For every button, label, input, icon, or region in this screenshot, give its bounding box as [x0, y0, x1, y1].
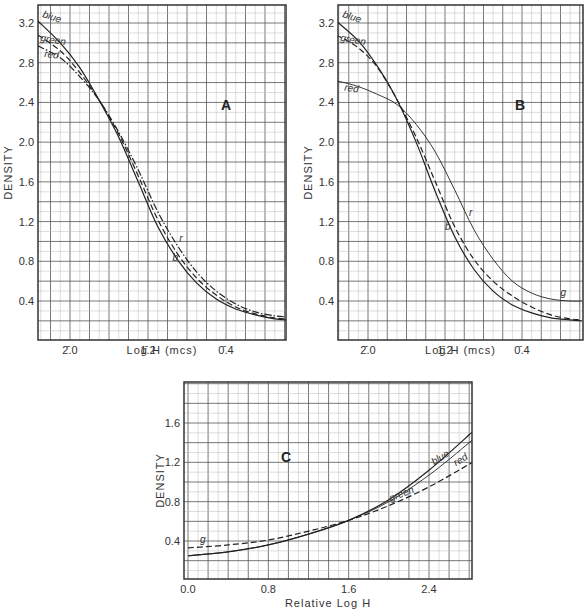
y-tick-label: 2.4: [319, 96, 334, 108]
curve-red: [188, 433, 479, 556]
curve-red: [38, 46, 287, 317]
y-axis-title: DENSITY: [154, 453, 166, 508]
x-tick-label: 0.8: [261, 583, 276, 595]
curve-label-blue: blue: [341, 8, 363, 24]
curve-label-blue: blue: [41, 8, 63, 24]
curve-label-g: g: [561, 287, 567, 298]
y-tick-label: 0.8: [319, 255, 334, 267]
curve-label-g: g: [200, 534, 206, 545]
y-tick-label: 2.0: [319, 136, 334, 148]
y-tick-label: 2.4: [19, 96, 34, 108]
curve-label-green: green: [340, 32, 368, 47]
grid-b: [338, 5, 583, 340]
y-tick-label: 3.2: [19, 17, 34, 29]
plot-frame-b: [338, 5, 583, 340]
y-tick-label: 1.6: [165, 417, 180, 429]
y-tick-label: 1.2: [165, 456, 180, 468]
y-tick-label: 0.8: [165, 496, 180, 508]
x-tick-label: 0̄.4: [218, 344, 233, 356]
grid-a: [38, 5, 286, 340]
curve-green: [38, 35, 287, 319]
y-axis-c: 1.61.20.80.4: [165, 417, 180, 547]
curve-red: [336, 81, 581, 302]
y-tick-label: 0.4: [19, 295, 34, 307]
chart-panel-b: 3.22.82.42.01.61.20.80.42̄.01̄.20̄.4Log …: [302, 5, 583, 356]
x-tick-label: 0.0: [180, 583, 195, 595]
curves-c: [188, 425, 479, 556]
panel-label-b: B: [515, 97, 525, 113]
curve-label-green: green: [40, 32, 68, 47]
y-tick-label: 1.2: [319, 216, 334, 228]
chart-panel-c: 1.61.20.80.40.00.81.62.4Relative Log HDE…: [154, 382, 479, 609]
x-tick-label: 2.4: [421, 583, 436, 595]
curves-a: [38, 21, 287, 320]
curve-labels-a: bluegreenredbr: [40, 8, 184, 263]
x-tick-label: 2̄.0: [360, 344, 375, 356]
plot-frame-a: [38, 5, 286, 340]
curve-label-red: red: [451, 451, 469, 468]
curve-blue: [336, 21, 581, 321]
y-tick-label: 3.2: [319, 17, 334, 29]
y-tick-label: 2.8: [319, 57, 334, 69]
y-axis-title: DENSITY: [302, 145, 314, 200]
x-axis-title: Log H (mcs): [127, 344, 198, 356]
curve-green: [336, 35, 581, 320]
curve-blue: [38, 21, 287, 320]
y-tick-label: 1.2: [19, 216, 34, 228]
x-tick-label: 2̄.0: [62, 344, 77, 356]
y-tick-label: 2.8: [19, 57, 34, 69]
curves-b: [336, 21, 581, 321]
curve-labels-b: bluegreenredbrg: [340, 8, 567, 298]
panel-label-c: C: [281, 449, 291, 465]
curve-label-red: red: [344, 82, 360, 95]
y-tick-label: 0.4: [165, 535, 180, 547]
curve-label-b: b: [445, 221, 451, 232]
x-tick-label: 0̄.4: [514, 344, 529, 356]
grid-c: [184, 382, 472, 579]
y-tick-label: 2.0: [19, 136, 34, 148]
curve-green: [188, 458, 479, 547]
curve-label-r: r: [179, 233, 183, 244]
x-axis-title: Log H (mcs): [425, 344, 496, 356]
y-axis-a: 3.22.82.42.01.61.20.80.4: [19, 17, 34, 307]
x-axis-title: Relative Log H: [285, 597, 371, 609]
curve-label-b: b: [172, 252, 178, 263]
panel-label-a: A: [221, 97, 231, 113]
curve-label-red: red: [44, 48, 60, 61]
y-tick-label: 1.6: [319, 176, 334, 188]
y-axis-title: DENSITY: [2, 145, 14, 200]
curve-label-blue: blue: [429, 447, 451, 467]
y-tick-label: 1.6: [19, 176, 34, 188]
curve-label-r: r: [469, 207, 473, 218]
curve-blue: [188, 425, 479, 556]
chart-panel-a: 3.22.82.42.01.61.20.80.42̄.01̄.20̄.4Log …: [2, 5, 286, 356]
x-axis-c: 0.00.81.62.4: [180, 583, 436, 595]
x-tick-label: 1.6: [341, 583, 356, 595]
y-tick-label: 0.4: [319, 295, 334, 307]
y-tick-label: 0.8: [19, 255, 34, 267]
figure: 3.22.82.42.01.61.20.80.42̄.01̄.20̄.4Log …: [0, 0, 587, 616]
y-axis-b: 3.22.82.42.01.61.20.80.4: [319, 17, 334, 307]
